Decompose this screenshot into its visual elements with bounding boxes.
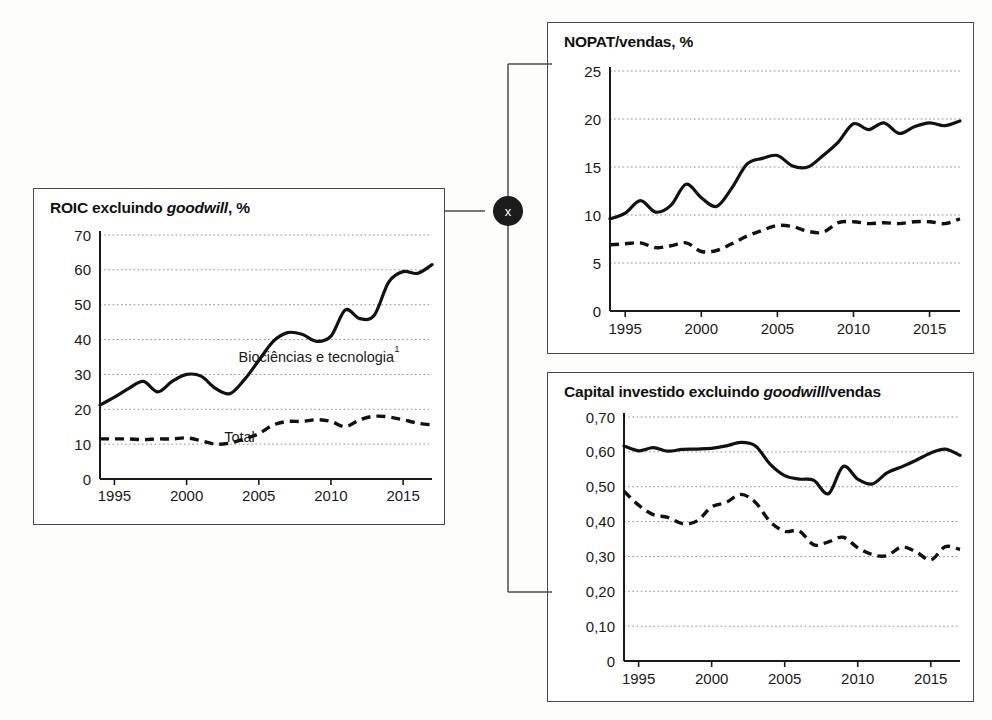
x-axis-tick-label: 1995 [622, 670, 655, 687]
y-axis-tick-label: 0,30 [586, 548, 615, 565]
chart-panel-roic: ROIC excluindo goodwill, % 0102030405060… [33, 188, 445, 525]
series-line-biosciences [610, 121, 960, 219]
series-line-total [624, 491, 960, 560]
x-axis-tick-label: 2005 [768, 670, 801, 687]
x-axis-tick-label: 2010 [841, 670, 874, 687]
y-axis-tick-label: 30 [74, 366, 91, 383]
x-axis-tick-label: 2015 [913, 320, 946, 337]
y-axis-tick-label: 10 [584, 207, 601, 224]
x-axis-tick-label: 2000 [170, 487, 203, 504]
y-axis-tick-label: 15 [584, 159, 601, 176]
chart-panel-capital: Capital investido excluindo goodwill/ven… [547, 372, 974, 702]
y-axis-tick-label: 40 [74, 331, 91, 348]
series-line-total [610, 219, 960, 252]
y-axis-tick-label: 20 [584, 111, 601, 128]
y-axis-tick-label: 5 [593, 255, 601, 272]
connector-multiply: x [440, 40, 560, 630]
y-axis-tick-label: 0 [593, 303, 601, 320]
y-axis-tick-label: 0 [607, 653, 615, 670]
x-axis-tick-label: 2015 [386, 487, 419, 504]
x-axis-tick-label: 2015 [914, 670, 947, 687]
y-axis-tick-label: 25 [584, 63, 601, 80]
series-label-biosciences: Biociências e tecnologia1 [239, 343, 400, 366]
y-axis-tick-label: 0,60 [586, 443, 615, 460]
multiply-operator-symbol: x [505, 204, 512, 219]
series-line-total [100, 416, 432, 444]
x-axis-tick-label: 2010 [314, 487, 347, 504]
x-axis-tick-label: 2000 [685, 320, 718, 337]
y-axis-tick-label: 0,40 [586, 513, 615, 530]
plot-area-roic: 01020304050607019952000200520102015Bioci… [34, 189, 446, 526]
x-axis-tick-label: 2005 [761, 320, 794, 337]
y-axis-tick-label: 70 [74, 227, 91, 244]
y-axis-tick-label: 0,10 [586, 618, 615, 635]
x-axis-tick-label: 1995 [98, 487, 131, 504]
plot-area-nopat: 051015202519952000200520102015 [548, 23, 975, 355]
y-axis-tick-label: 0,20 [586, 583, 615, 600]
x-axis-tick-label: 1995 [609, 320, 642, 337]
series-label-total: Total [224, 429, 255, 445]
x-axis-tick-label: 2005 [242, 487, 275, 504]
y-axis-tick-label: 0,70 [586, 409, 615, 426]
x-axis-tick-label: 2010 [837, 320, 870, 337]
x-axis-tick-label: 2000 [695, 670, 728, 687]
y-axis-tick-label: 50 [74, 296, 91, 313]
y-axis-tick-label: 10 [74, 436, 91, 453]
y-axis-tick-label: 60 [74, 261, 91, 278]
y-axis-tick-label: 0 [83, 471, 91, 488]
series-line-biosciences [100, 265, 432, 405]
y-axis-tick-label: 0,50 [586, 478, 615, 495]
plot-area-capital: 00,100,200,300,400,500,600,7019952000200… [548, 373, 975, 703]
y-axis-tick-label: 20 [74, 401, 91, 418]
chart-panel-nopat: NOPAT/vendas, % 051015202519952000200520… [547, 22, 974, 354]
